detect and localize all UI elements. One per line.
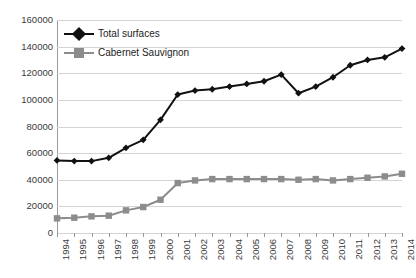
data-point-marker [157,197,163,203]
x-tick-label: 1996 [96,239,106,260]
chart-legend: Total surfaces Cabernet Sauvignon [64,24,216,62]
data-point-marker [71,158,78,165]
x-tick-label: 2004 [234,239,244,260]
data-point-marker [209,176,215,182]
x-tick-label: 1997 [113,239,123,260]
x-tick [195,233,196,237]
x-tick-label: 2005 [251,239,261,260]
x-tick [178,233,179,237]
x-tick [281,233,282,237]
legend-marker-square-icon [64,46,94,60]
data-point-marker [140,204,146,210]
data-point-marker [226,176,232,182]
y-tick-label: 40000 [1,175,53,185]
data-point-marker [243,81,250,88]
data-point-marker [347,176,353,182]
data-point-marker [106,212,112,218]
data-point-marker [381,54,388,61]
y-tick-label: 20000 [1,202,53,212]
x-tick [92,233,93,237]
data-point-marker [364,175,370,181]
x-tick [74,233,75,237]
series-total-surfaces [54,45,406,164]
x-tick [402,233,403,237]
x-tick [316,233,317,237]
x-tick-label: 2008 [303,239,313,260]
data-point-marker [261,176,267,182]
data-point-marker [88,213,94,219]
x-tick [143,233,144,237]
x-tick [230,233,231,237]
data-point-marker [382,173,388,179]
x-tick-label: 2006 [268,239,278,260]
y-tick-label: 80000 [1,122,53,132]
legend-marker-diamond-icon [64,27,94,41]
y-tick-label: 100000 [1,95,53,105]
x-tick [299,233,300,237]
data-point-marker [175,180,181,186]
x-tick [333,233,334,237]
data-point-marker [88,158,95,165]
data-point-marker [71,214,77,220]
y-tick-label: 120000 [1,69,53,79]
data-point-marker [399,171,405,177]
data-point-marker [295,177,301,183]
y-axis-labels: 1600001400001200001000008000060000400002… [0,20,53,233]
x-tick [350,233,351,237]
x-axis-labels: 1994199519961997199819992000200120022003… [57,239,402,278]
x-tick [161,233,162,237]
x-tick-label: 2007 [285,239,295,260]
x-tick [57,233,58,237]
legend-item-cabernet-sauvignon: Cabernet Sauvignon [64,43,216,62]
data-point-marker [192,177,198,183]
x-tick [109,233,110,237]
x-tick [126,233,127,237]
data-point-marker [261,78,268,85]
data-point-marker [399,45,406,52]
legend-label-total-surfaces: Total surfaces [98,28,160,39]
data-point-marker [54,215,60,221]
data-point-marker [192,87,199,94]
x-tick [247,233,248,237]
data-point-marker [278,176,284,182]
data-point-marker [54,157,61,164]
data-point-marker [244,176,250,182]
x-tick [368,233,369,237]
y-tick-label: 60000 [1,148,53,158]
data-point-marker [364,57,371,64]
data-point-marker [313,176,319,182]
x-tick-label: 1999 [147,239,157,260]
x-tick [385,233,386,237]
data-point-marker [123,207,129,213]
x-tick-label: 2010 [337,239,347,260]
data-point-marker [209,86,216,93]
x-tick [212,233,213,237]
x-tick-label: 1994 [61,239,71,260]
x-tick-label: 2002 [199,239,209,260]
x-tick-label: 1995 [78,239,88,260]
y-tick-label: 140000 [1,42,53,52]
x-tick-label: 2003 [216,239,226,260]
x-tick-label: 2013 [389,239,399,260]
x-tick-label: 2012 [372,239,382,260]
data-point-marker [330,177,336,183]
x-axis-ticks [57,233,402,238]
y-tick-label: 160000 [1,15,53,25]
x-tick-label: 2000 [165,239,175,260]
x-tick-label: 2001 [182,239,192,260]
legend-item-total-surfaces: Total surfaces [64,24,216,43]
x-tick-label: 2014 [406,239,416,260]
x-tick-label: 1998 [130,239,140,260]
x-tick-label: 2009 [320,239,330,260]
x-tick-label: 2011 [354,239,364,259]
data-point-marker [226,83,233,90]
y-tick-label: 0 [1,228,53,238]
series-cabernet-sauvignon [54,171,405,222]
legend-label-cabernet-sauvignon: Cabernet Sauvignon [98,47,189,58]
x-tick [264,233,265,237]
